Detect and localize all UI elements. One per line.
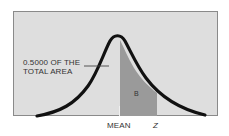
annotation-line-1: 0.5000 OF THE [23, 58, 80, 67]
shaded-region-label: B [134, 90, 139, 97]
z-axis-label: Z [153, 121, 158, 130]
annotation-line-2: TOTAL AREA [23, 67, 80, 76]
total-area-annotation: 0.5000 OF THE TOTAL AREA [23, 58, 80, 76]
shaded-area-b [120, 40, 157, 116]
mean-axis-label: MEAN [107, 121, 131, 130]
